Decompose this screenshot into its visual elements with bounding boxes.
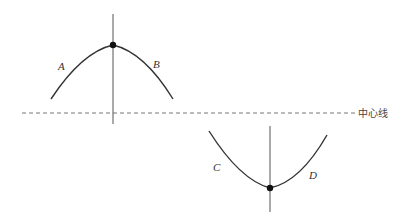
label-b: B — [153, 58, 160, 70]
diagram-svg: 中心线 A B C D — [0, 0, 402, 224]
label-c: C — [213, 161, 221, 173]
center-line-label: 中心线 — [358, 107, 388, 119]
upper-extremum-point — [110, 42, 116, 48]
label-a: A — [57, 60, 65, 72]
upper-curve — [51, 45, 173, 99]
diagram-canvas: 中心线 A B C D — [0, 0, 402, 224]
label-d: D — [308, 169, 317, 181]
lower-extremum-point — [267, 185, 273, 191]
